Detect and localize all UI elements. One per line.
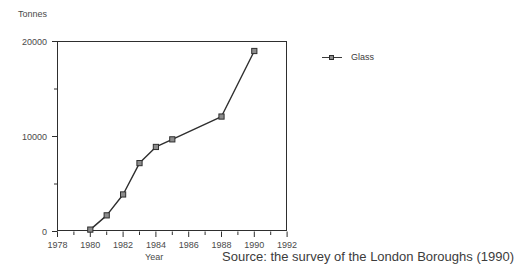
series-markers-glass [88, 48, 257, 232]
x-axis-title: Year [145, 252, 163, 262]
data-point [219, 114, 224, 119]
x-tick-label: 1980 [80, 240, 100, 250]
x-tick-label: 1978 [47, 240, 67, 250]
y-axis-tick-labels: 20000 10000 0 [22, 37, 47, 237]
x-tick-label: 1986 [179, 240, 199, 250]
data-point [88, 227, 93, 232]
legend-label-glass: Glass [351, 52, 374, 62]
data-point [137, 161, 142, 166]
data-point [252, 48, 257, 53]
y-axis-ticks [52, 42, 58, 232]
y-tick-label: 10000 [22, 132, 47, 142]
data-point [104, 213, 109, 218]
x-tick-label: 1982 [113, 240, 133, 250]
data-point [170, 137, 175, 142]
legend-marker-glass [322, 53, 342, 62]
plot-frame [58, 42, 287, 231]
data-point [121, 192, 126, 197]
source-caption: Source: the survey of the London Borough… [222, 249, 514, 264]
y-tick-label: 0 [42, 227, 47, 237]
x-tick-label: 1984 [146, 240, 166, 250]
data-point [153, 144, 158, 149]
chart-legend: Glass [322, 52, 374, 62]
y-tick-label: 20000 [22, 37, 47, 47]
data-series-glass [88, 48, 257, 232]
